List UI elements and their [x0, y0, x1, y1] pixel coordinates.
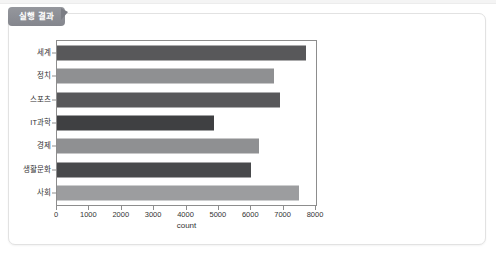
bars-layer: [57, 41, 316, 205]
bar: [57, 69, 274, 84]
y-axis-tick: [52, 169, 56, 170]
y-axis-tick-label: 사회: [37, 190, 51, 198]
y-axis-tick-label: 생활문화: [23, 166, 51, 174]
x-axis-tick-label: 4000: [177, 211, 194, 219]
y-axis-tick: [52, 146, 56, 147]
y-axis-tick: [52, 123, 56, 124]
x-axis-tick-label: 5000: [210, 211, 227, 219]
x-axis-tick-label: 2000: [112, 211, 129, 219]
y-axis-tick: [52, 52, 56, 53]
y-axis-tick-label: 경제: [37, 143, 51, 151]
y-axis-labels: 세계정치스포츠IT과학경제생활문화사회: [9, 40, 51, 206]
bar: [57, 186, 299, 201]
bar: [57, 92, 280, 107]
y-axis-tick-label: IT과학: [30, 119, 51, 127]
x-axis-tick-label: 0: [54, 211, 58, 219]
x-axis-tick-label: 8000: [307, 211, 324, 219]
bar: [57, 139, 259, 154]
x-axis-tick-label: 7000: [274, 211, 291, 219]
x-axis-title: count: [56, 221, 317, 230]
y-axis-tick-label: 정치: [37, 72, 51, 80]
y-axis-tick: [52, 76, 56, 77]
tab-pointer-triangle-icon: [61, 8, 68, 20]
result-panel: 세계정치스포츠IT과학경제생활문화사회 01000200030004000500…: [8, 13, 486, 245]
result-tab[interactable]: 실행 결과: [8, 7, 65, 26]
bar: [57, 116, 214, 131]
page-background: 세계정치스포츠IT과학경제생활문화사회 01000200030004000500…: [0, 0, 496, 259]
x-axis-tick-label: 1000: [80, 211, 97, 219]
y-axis-tick-label: 세계: [37, 49, 51, 57]
bar-chart: 세계정치스포츠IT과학경제생활문화사회 01000200030004000500…: [9, 14, 487, 244]
x-axis-tick-label: 6000: [242, 211, 259, 219]
top-divider: [0, 0, 496, 4]
x-axis-tick-label: 3000: [145, 211, 162, 219]
bar: [57, 45, 306, 60]
y-axis-tick-label: 스포츠: [30, 96, 51, 104]
y-axis-tick: [52, 99, 56, 100]
result-tab-label: 실행 결과: [19, 12, 54, 21]
bar: [57, 162, 251, 177]
y-axis-tick: [52, 193, 56, 194]
